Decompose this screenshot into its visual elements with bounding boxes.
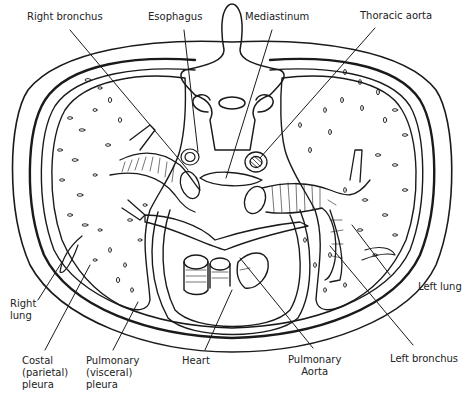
label-costal-pleura: Costal (parietal) pleura xyxy=(22,355,68,391)
label-right-lung-line1: Right xyxy=(10,298,36,310)
thoracic-aorta xyxy=(245,152,267,172)
thorax-cross-section-diagram xyxy=(0,0,465,393)
label-right-lung-line2: lung xyxy=(10,310,36,322)
label-pulmonary-aorta-line2: Aorta xyxy=(288,366,341,378)
label-right-bronchus: Right bronchus xyxy=(27,11,103,23)
label-thoracic-aorta: Thoracic aorta xyxy=(360,10,432,22)
label-pulmonary-pleura: Pulmonary (visceral) pleura xyxy=(86,355,139,391)
label-heart: Heart xyxy=(182,355,210,367)
right-bronchus-tree xyxy=(110,125,203,220)
pulmonary-artery xyxy=(145,215,308,250)
label-right-lung: Right lung xyxy=(10,298,36,322)
label-mediastinum: Mediastinum xyxy=(245,11,309,23)
label-pulmonary-pleura-line2: (visceral) xyxy=(86,367,139,379)
label-pulmonary-pleura-line1: Pulmonary xyxy=(86,355,139,367)
label-costal-pleura-line2: (parietal) xyxy=(22,367,68,379)
leader-lines xyxy=(38,28,413,350)
label-esophagus: Esophagus xyxy=(148,11,202,23)
label-pulmonary-pleura-line3: pleura xyxy=(86,379,139,391)
label-pulmonary-aorta-line1: Pulmonary xyxy=(288,354,341,366)
body-wall xyxy=(13,41,452,352)
label-costal-pleura-line3: pleura xyxy=(22,379,68,391)
lung-texture xyxy=(58,69,408,292)
esophagus xyxy=(181,149,199,165)
mediastinum-structure xyxy=(200,172,262,186)
label-pulmonary-aorta: Pulmonary Aorta xyxy=(288,354,341,378)
heart xyxy=(152,210,310,335)
left-bronchus-tree xyxy=(241,150,370,282)
label-left-lung: Left lung xyxy=(418,281,462,293)
label-costal-pleura-line1: Costal xyxy=(22,355,68,367)
vertebra xyxy=(181,4,284,150)
label-left-bronchus: Left bronchus xyxy=(390,353,458,365)
